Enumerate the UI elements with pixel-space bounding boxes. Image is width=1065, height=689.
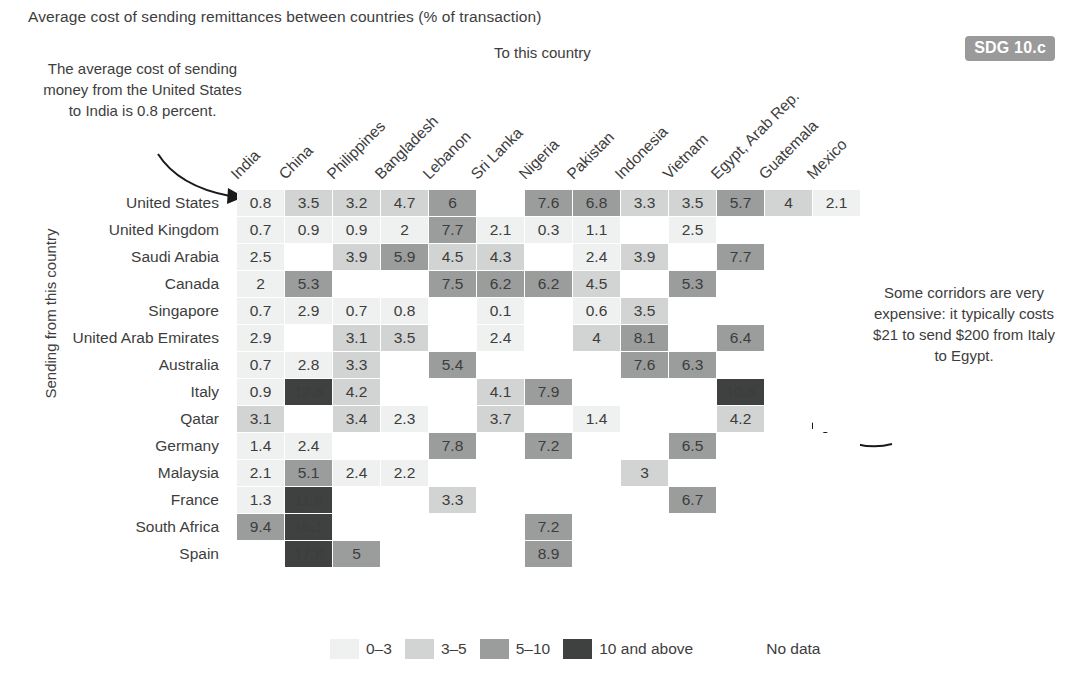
heatmap-cell[interactable] (765, 244, 812, 270)
heatmap-cell[interactable] (669, 460, 716, 486)
heatmap-cell[interactable]: 16.1 (285, 514, 332, 540)
heatmap-cell[interactable] (429, 379, 476, 405)
heatmap-cell[interactable] (333, 487, 380, 513)
heatmap-cell[interactable]: 5.1 (285, 460, 332, 486)
heatmap-cell[interactable] (813, 271, 860, 297)
heatmap-cell[interactable]: 4.5 (429, 244, 476, 270)
heatmap-cell[interactable]: 0.8 (381, 298, 428, 324)
heatmap-cell[interactable]: 4.5 (573, 271, 620, 297)
heatmap-cell[interactable]: 4.2 (717, 406, 764, 432)
heatmap-cell[interactable]: 0.9 (285, 217, 332, 243)
heatmap-cell[interactable] (669, 514, 716, 540)
heatmap-cell[interactable]: 2.5 (237, 244, 284, 270)
heatmap-cell[interactable] (285, 406, 332, 432)
heatmap-cell[interactable]: 3.3 (333, 352, 380, 378)
heatmap-cell[interactable]: 3.2 (333, 190, 380, 216)
heatmap-cell[interactable]: 5.3 (669, 271, 716, 297)
heatmap-cell[interactable] (669, 325, 716, 351)
heatmap-cell[interactable] (765, 325, 812, 351)
heatmap-cell[interactable]: 5.7 (717, 190, 764, 216)
heatmap-cell[interactable]: 6.8 (573, 190, 620, 216)
heatmap-cell[interactable]: 6.3 (669, 352, 716, 378)
heatmap-cell[interactable] (669, 379, 716, 405)
heatmap-cell[interactable] (477, 190, 524, 216)
heatmap-cell[interactable] (813, 244, 860, 270)
heatmap-cell[interactable] (813, 352, 860, 378)
heatmap-cell[interactable] (765, 460, 812, 486)
heatmap-cell[interactable] (669, 406, 716, 432)
heatmap-cell[interactable] (621, 541, 668, 567)
heatmap-cell[interactable] (573, 541, 620, 567)
heatmap-cell[interactable]: 2.1 (477, 217, 524, 243)
heatmap-cell[interactable]: 0.9 (333, 217, 380, 243)
heatmap-cell[interactable]: 4.2 (333, 379, 380, 405)
heatmap-cell[interactable]: 4 (573, 325, 620, 351)
heatmap-cell[interactable]: 6 (429, 190, 476, 216)
heatmap-cell[interactable] (477, 433, 524, 459)
heatmap-cell[interactable]: 17.8 (285, 541, 332, 567)
heatmap-cell[interactable]: 7.7 (429, 217, 476, 243)
heatmap-cell[interactable]: 5.4 (429, 352, 476, 378)
heatmap-cell[interactable] (813, 541, 860, 567)
heatmap-cell[interactable] (477, 460, 524, 486)
heatmap-cell[interactable]: 2.1 (813, 190, 860, 216)
heatmap-cell[interactable] (429, 298, 476, 324)
heatmap-cell[interactable]: 4.7 (381, 190, 428, 216)
heatmap-cell[interactable] (333, 433, 380, 459)
heatmap-cell[interactable] (765, 217, 812, 243)
heatmap-cell[interactable]: 2.8 (285, 352, 332, 378)
heatmap-cell[interactable]: 6.7 (669, 487, 716, 513)
heatmap-cell[interactable]: 8.1 (621, 325, 668, 351)
heatmap-cell[interactable] (285, 244, 332, 270)
heatmap-cell[interactable]: 11.8 (285, 487, 332, 513)
heatmap-cell[interactable] (717, 271, 764, 297)
heatmap-cell[interactable] (573, 352, 620, 378)
heatmap-cell[interactable] (525, 352, 572, 378)
heatmap-cell[interactable] (717, 217, 764, 243)
heatmap-cell[interactable]: 6.2 (525, 271, 572, 297)
heatmap-cell[interactable]: 2 (237, 271, 284, 297)
heatmap-cell[interactable]: 1.1 (573, 217, 620, 243)
heatmap-cell[interactable] (813, 406, 860, 432)
heatmap-cell[interactable] (237, 541, 284, 567)
heatmap-cell[interactable] (525, 406, 572, 432)
heatmap-cell[interactable]: 5.3 (285, 271, 332, 297)
heatmap-cell[interactable]: 6.5 (669, 433, 716, 459)
heatmap-cell[interactable]: 7.5 (429, 271, 476, 297)
heatmap-cell[interactable] (525, 487, 572, 513)
heatmap-cell[interactable] (429, 514, 476, 540)
heatmap-cell[interactable]: 3.3 (429, 487, 476, 513)
heatmap-cell[interactable] (621, 271, 668, 297)
heatmap-cell[interactable] (813, 325, 860, 351)
heatmap-cell[interactable]: 4.1 (477, 379, 524, 405)
heatmap-cell[interactable] (669, 244, 716, 270)
heatmap-cell[interactable]: 3.5 (669, 190, 716, 216)
heatmap-cell[interactable] (765, 487, 812, 513)
heatmap-cell[interactable]: 2.4 (285, 433, 332, 459)
heatmap-cell[interactable]: 0.7 (237, 298, 284, 324)
heatmap-cell[interactable] (717, 460, 764, 486)
heatmap-cell[interactable] (765, 298, 812, 324)
heatmap-cell[interactable] (621, 379, 668, 405)
heatmap-cell[interactable] (717, 298, 764, 324)
heatmap-cell[interactable] (381, 271, 428, 297)
heatmap-cell[interactable]: 0.1 (477, 298, 524, 324)
heatmap-cell[interactable]: 4.3 (477, 244, 524, 270)
heatmap-cell[interactable] (573, 433, 620, 459)
heatmap-cell[interactable] (765, 541, 812, 567)
heatmap-cell[interactable]: 2.4 (573, 244, 620, 270)
heatmap-cell[interactable]: 0.6 (573, 298, 620, 324)
heatmap-cell[interactable]: 8.9 (525, 541, 572, 567)
heatmap-cell[interactable] (813, 298, 860, 324)
heatmap-cell[interactable] (525, 460, 572, 486)
heatmap-cell[interactable]: 2.4 (333, 460, 380, 486)
heatmap-cell[interactable] (813, 460, 860, 486)
heatmap-cell[interactable] (717, 541, 764, 567)
heatmap-cell[interactable] (765, 379, 812, 405)
heatmap-cell[interactable]: 3.5 (381, 325, 428, 351)
heatmap-cell[interactable]: 0.7 (237, 352, 284, 378)
heatmap-cell[interactable]: 2.3 (381, 406, 428, 432)
heatmap-cell[interactable]: 7.9 (525, 379, 572, 405)
heatmap-cell[interactable] (669, 541, 716, 567)
heatmap-cell[interactable] (573, 514, 620, 540)
